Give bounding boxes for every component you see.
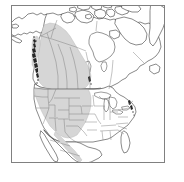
north-america-map [0, 0, 184, 182]
distribution-map-figure [0, 0, 184, 182]
